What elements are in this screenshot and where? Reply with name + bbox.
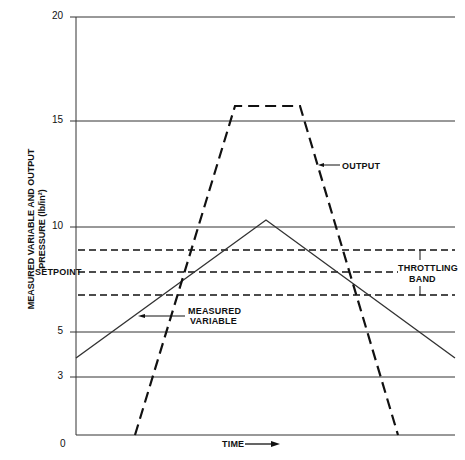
y-tick-20: 20 <box>43 10 63 21</box>
y-tick-10: 10 <box>43 220 63 231</box>
x-axis-label-time: TIME <box>222 439 244 449</box>
measured-variable-label-line1: MEASURED <box>188 306 241 316</box>
setpoint-label: SETPOINT <box>35 267 82 277</box>
y-axis-label-line1: MEASURED VARIABLE AND OUTPUT <box>26 134 37 324</box>
grid-lines <box>70 17 455 435</box>
throttling-band-label-line2: BAND <box>409 274 436 284</box>
y-tick-5: 5 <box>43 325 63 336</box>
throttling-band-label-line1: THROTTLING <box>398 263 458 273</box>
measured-variable-label-line2: VARIABLE <box>190 316 237 326</box>
output-line <box>135 106 398 435</box>
chart-plot <box>0 0 465 460</box>
y-tick-15: 15 <box>43 114 63 125</box>
output-label: OUTPUT <box>342 161 380 171</box>
y-tick-3: 3 <box>43 370 63 381</box>
measured-variable-line <box>76 220 455 358</box>
x-origin-0: 0 <box>60 438 80 449</box>
